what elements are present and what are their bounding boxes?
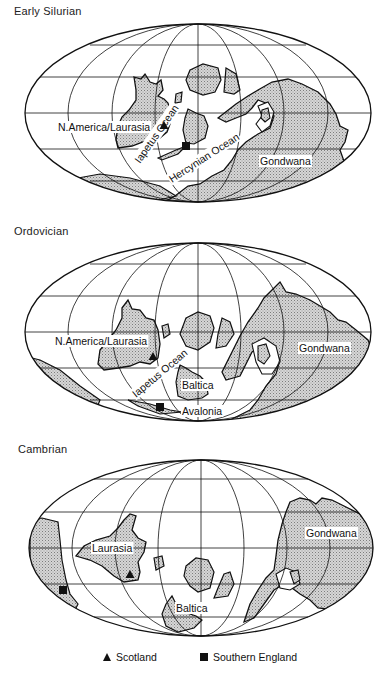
map-label-gondwana: Gondwana — [259, 155, 312, 167]
map-label-laurasia: Laurasia — [91, 542, 133, 554]
legend-label-southern-england: Southern England — [213, 651, 297, 663]
square-icon — [200, 653, 208, 661]
landmass-laurasia — [116, 74, 171, 148]
map-label-n-america-laurasia: N.America/Laurasia — [57, 121, 151, 133]
legend: Scotland Southern England — [0, 651, 389, 671]
map-cambrian: LaurasiaBalticaGondwana — [29, 460, 375, 636]
map-ordovician: N.America/LaurasiaIapetus OceanBalticaAv… — [24, 243, 372, 421]
map-label-baltica: Baltica — [175, 602, 209, 614]
svg-text:Baltica: Baltica — [176, 602, 208, 614]
map-label-gondwana: Gondwana — [298, 342, 351, 354]
svg-text:N.America/Laurasia: N.America/Laurasia — [55, 335, 147, 347]
map-label-baltica: Baltica — [181, 379, 215, 391]
map-label-gondwana: Gondwana — [305, 527, 358, 539]
svg-text:Laurasia: Laurasia — [92, 542, 132, 554]
svg-text:Baltica: Baltica — [182, 379, 214, 391]
landmass-gondwana — [244, 498, 375, 622]
southern-england-square-icon — [182, 142, 190, 150]
svg-text:Gondwana: Gondwana — [299, 342, 350, 354]
svg-text:Gondwana: Gondwana — [260, 155, 311, 167]
map-early-silurian: N.America/LaurasiaIapetus OceanHercynian… — [25, 24, 372, 210]
legend-item-scotland: Scotland — [103, 651, 157, 663]
paleogeographic-maps: N.America/LaurasiaIapetus OceanHercynian… — [0, 0, 389, 680]
southern-england-square-icon — [156, 403, 164, 411]
legend-label-scotland: Scotland — [116, 651, 157, 663]
svg-text:Avalonia: Avalonia — [182, 405, 222, 417]
svg-text:Gondwana: Gondwana — [306, 527, 357, 539]
legend-item-southern-england: Southern England — [200, 651, 297, 663]
southern-england-square-icon — [59, 586, 67, 594]
map-label-avalonia: Avalonia — [181, 405, 223, 417]
panel-title-early-silurian: Early Silurian — [14, 5, 82, 17]
landmass-avalonia — [128, 400, 182, 414]
map-label-n-america-laurasia: N.America/Laurasia — [54, 335, 148, 347]
panel-title-cambrian: Cambrian — [18, 443, 67, 455]
svg-text:N.America/Laurasia: N.America/Laurasia — [58, 121, 150, 133]
triangle-icon — [103, 653, 111, 661]
panel-title-ordovician: Ordovician — [14, 225, 69, 237]
